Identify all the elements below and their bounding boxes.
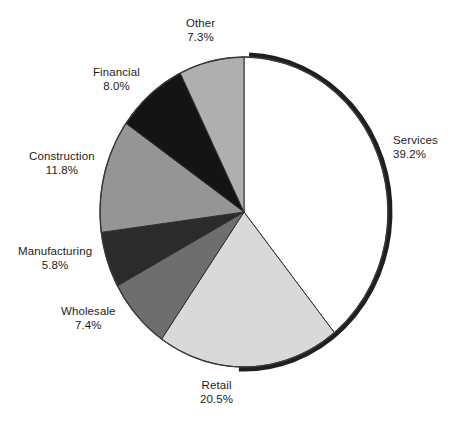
pie-chart: Services39.2%Retail20.5%Wholesale7.4%Man… (0, 0, 460, 421)
slice-label-wholesale: Wholesale7.4% (61, 305, 116, 332)
pie-slices (100, 57, 388, 367)
slice-label-value: 39.2% (393, 148, 438, 162)
slice-label-name: Construction (29, 150, 95, 164)
slice-label-name: Retail (200, 379, 233, 393)
slice-label-value: 5.8% (18, 259, 92, 273)
slice-label-name: Wholesale (61, 305, 116, 319)
slice-label-name: Manufacturing (18, 245, 92, 259)
slice-label-value: 11.8% (29, 164, 95, 178)
slice-label-name: Financial (93, 66, 140, 80)
slice-label-name: Services (393, 134, 438, 148)
slice-label-value: 20.5% (200, 393, 233, 407)
slice-label-value: 7.3% (186, 31, 215, 45)
slice-label-retail: Retail20.5% (200, 379, 233, 406)
pie-chart-canvas (0, 0, 460, 421)
slice-label-financial: Financial8.0% (93, 66, 140, 93)
slice-label-manufacturing: Manufacturing5.8% (18, 245, 92, 272)
slice-label-name: Other (186, 17, 215, 31)
slice-label-value: 7.4% (61, 319, 116, 333)
slice-label-value: 8.0% (93, 80, 140, 94)
slice-label-other: Other7.3% (186, 17, 215, 44)
slice-label-construction: Construction11.8% (29, 150, 95, 177)
slice-label-services: Services39.2% (393, 134, 438, 161)
